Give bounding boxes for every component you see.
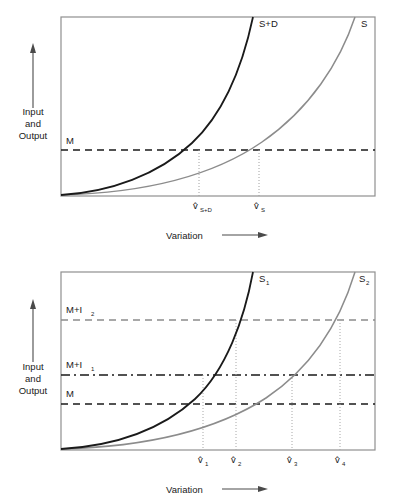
curve-label-s2-sub: 2 [366, 280, 370, 286]
x-axis-arrow [222, 486, 268, 492]
curve-label-s1: S 1 [259, 273, 270, 286]
y-axis-label-line-1: Input [22, 361, 43, 372]
level-label-m: M [66, 135, 74, 146]
y-axis-label-line-2: and [25, 373, 41, 384]
curve-s2 [61, 272, 355, 449]
x-tick-subscript-s: S [261, 207, 265, 213]
y-axis-label-line-2: and [25, 118, 41, 129]
curve-label-s-plus-d: S+D [259, 18, 278, 29]
x-tick-label-v-hat-3: v̂ 3 [287, 454, 298, 467]
x-tick-label-v-hat-spd: v̂ S+D [193, 200, 213, 213]
curve-label-s: S [361, 18, 367, 29]
svg-text:v̂: v̂ [198, 454, 203, 465]
top-chart-svg: Input and Output M S+D S v̂ S+D v̂ [0, 0, 396, 250]
figure-container: Input and Output M S+D S v̂ S+D v̂ [0, 0, 396, 500]
level-label-m-plus-i1-base: M+I [66, 359, 82, 370]
curve-label-s2-base: S [359, 273, 365, 284]
x-tick-subscript-4: 4 [342, 461, 346, 467]
chart-panel-top: Input and Output M S+D S v̂ S+D v̂ [0, 0, 396, 250]
curve-label-s1-base: S [259, 273, 265, 284]
x-tick-label-v-hat-1: v̂ 1 [198, 454, 209, 467]
y-axis-arrow [30, 43, 36, 108]
level-label-m-plus-i1: M+I 1 [66, 359, 95, 372]
level-label-m: M [66, 388, 74, 399]
level-label-m-plus-i2: M+I 2 [66, 304, 95, 317]
x-tick-label-v-hat-4: v̂ 4 [335, 454, 346, 467]
level-label-m-plus-i1-sub: 1 [91, 366, 95, 372]
bottom-chart-svg: Input and Output M+I 2 M+I 1 M [0, 250, 396, 500]
svg-text:v̂: v̂ [335, 454, 340, 465]
x-tick-subscript-spd: S+D [200, 207, 213, 213]
x-tick-subscript-3: 3 [294, 461, 298, 467]
level-label-m-plus-i2-base: M+I [66, 304, 82, 315]
x-axis-arrow [222, 232, 268, 238]
svg-text:v̂: v̂ [231, 454, 236, 465]
curve-label-s2: S 2 [359, 273, 370, 286]
plot-box [61, 272, 375, 450]
level-label-m-plus-i2-sub: 2 [91, 311, 95, 317]
svg-text:v̂: v̂ [254, 200, 259, 211]
y-axis-label-line-3: Output [19, 385, 48, 396]
curve-s [61, 17, 355, 195]
y-axis-label-line-1: Input [22, 106, 43, 117]
x-tick-label-v-hat-2: v̂ 2 [231, 454, 242, 467]
svg-text:v̂: v̂ [193, 200, 198, 211]
svg-text:v̂: v̂ [287, 454, 292, 465]
x-axis-label: Variation [166, 484, 203, 495]
plot-box [61, 17, 375, 196]
x-tick-subscript-2: 2 [238, 461, 242, 467]
x-tick-subscript-1: 1 [205, 461, 209, 467]
curve-s-plus-d [61, 17, 253, 195]
x-tick-label-v-hat-s: v̂ S [254, 200, 265, 213]
chart-panel-bottom: Input and Output M+I 2 M+I 1 M [0, 250, 396, 500]
curve-label-s1-sub: 1 [266, 280, 270, 286]
y-axis-label-line-3: Output [19, 130, 48, 141]
curve-s1 [61, 272, 253, 449]
x-axis-label: Variation [166, 230, 203, 241]
y-axis-arrow [30, 299, 36, 362]
